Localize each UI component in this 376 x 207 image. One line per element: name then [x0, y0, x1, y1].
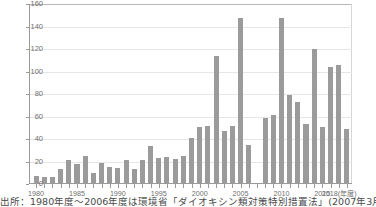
x-tick-mark	[232, 184, 233, 188]
bar	[344, 129, 349, 183]
y-tick-mark	[26, 162, 29, 163]
bar	[238, 18, 243, 184]
x-tick-mark	[306, 184, 307, 188]
bar	[230, 126, 235, 184]
bar	[58, 169, 63, 183]
x-tick-mark	[93, 184, 94, 188]
y-tick-mark	[26, 49, 29, 50]
x-tick-mark	[77, 184, 78, 188]
x-tick-mark	[126, 184, 127, 188]
y-tick-label: 100	[30, 68, 43, 76]
bar	[189, 138, 194, 183]
bar	[83, 156, 88, 183]
x-tick-mark	[208, 184, 209, 188]
y-tick-label: 20	[35, 158, 43, 166]
bar	[173, 159, 178, 183]
y-tick-mark	[26, 4, 29, 5]
bar	[295, 102, 300, 183]
x-tick-mark	[314, 184, 315, 188]
bar	[74, 164, 79, 183]
x-tick-mark	[167, 184, 168, 188]
bar	[148, 146, 153, 183]
x-tick-mark	[241, 184, 242, 188]
y-tick-mark	[26, 94, 29, 95]
x-tick-mark	[322, 184, 323, 188]
x-tick-mark	[159, 184, 160, 188]
bar	[336, 65, 341, 183]
bar	[320, 127, 325, 183]
bar	[50, 177, 55, 183]
bar	[124, 160, 129, 183]
chart-figure: 198019851990199520002005201020152018(年度)…	[0, 0, 376, 207]
bar	[164, 157, 169, 183]
y-tick-mark	[26, 27, 29, 28]
gridline	[30, 49, 352, 50]
y-tick-label: 160	[30, 0, 43, 8]
y-tick-mark	[26, 184, 29, 185]
x-tick-mark	[257, 184, 258, 188]
bar	[271, 115, 276, 183]
x-tick-mark	[249, 184, 250, 188]
y-tick-mark	[26, 117, 29, 118]
y-tick-mark	[26, 139, 29, 140]
x-tick-mark	[224, 184, 225, 188]
x-tick-mark	[281, 184, 282, 188]
y-tick-label: 60	[35, 113, 43, 121]
x-tick-mark	[200, 184, 201, 188]
x-tick-mark	[142, 184, 143, 188]
x-tick-mark	[175, 184, 176, 188]
bar	[312, 49, 317, 183]
gridline	[30, 117, 352, 118]
x-tick-mark	[151, 184, 152, 188]
bar	[263, 118, 268, 183]
y-tick-mark	[26, 72, 29, 73]
bar	[132, 169, 137, 183]
y-tick-label: 0	[39, 180, 43, 188]
x-tick-mark	[69, 184, 70, 188]
y-tick-label: 40	[35, 135, 43, 143]
bar	[214, 56, 219, 183]
y-tick-label: 120	[30, 45, 43, 53]
y-tick-label: 80	[35, 90, 43, 98]
chart-plot-area: 198019851990199520002005201020152018(年度)	[29, 4, 352, 184]
bar	[222, 131, 227, 183]
x-tick-mark	[134, 184, 135, 188]
x-tick-mark	[339, 184, 340, 188]
gridline	[30, 27, 352, 28]
x-tick-mark	[183, 184, 184, 188]
x-tick-mark	[298, 184, 299, 188]
x-tick-mark	[52, 184, 53, 188]
bar	[246, 145, 251, 183]
x-tick-mark	[36, 184, 37, 188]
x-tick-mark	[102, 184, 103, 188]
x-tick-mark	[85, 184, 86, 188]
x-tick-mark	[192, 184, 193, 188]
x-tick-mark	[347, 184, 348, 188]
gridline	[30, 72, 352, 73]
y-tick-label: 140	[30, 23, 43, 31]
x-tick-mark	[216, 184, 217, 188]
bar	[107, 167, 112, 183]
x-tick-mark	[110, 184, 111, 188]
x-tick-mark	[273, 184, 274, 188]
source-note: 出所：1980年度〜2006年度は環境省「ダイオキシン類対策特別措置法」(200…	[0, 196, 376, 207]
gridline	[30, 94, 352, 95]
bar	[197, 127, 202, 183]
x-tick-mark	[118, 184, 119, 188]
bar	[181, 156, 186, 183]
bar	[156, 158, 161, 183]
plot-frame-top	[29, 4, 352, 5]
x-tick-mark	[290, 184, 291, 188]
bar	[140, 160, 145, 183]
bar	[99, 163, 104, 183]
bar	[115, 168, 120, 183]
bar	[66, 160, 71, 183]
bar	[279, 18, 284, 184]
bar	[303, 124, 308, 183]
bar	[287, 95, 292, 183]
x-tick-mark	[331, 184, 332, 188]
bar	[205, 126, 210, 184]
x-tick-mark	[61, 184, 62, 188]
x-tick-mark	[44, 184, 45, 188]
x-tick-mark	[265, 184, 266, 188]
